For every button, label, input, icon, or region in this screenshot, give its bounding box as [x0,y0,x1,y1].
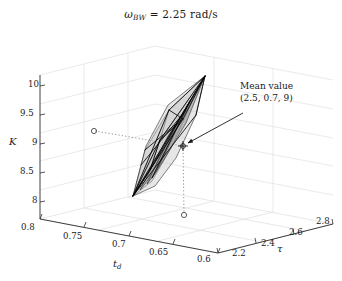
k-tick-label: 9.5 [20,108,34,118]
tau-tick-label: 2.6 [289,227,303,237]
td-axis-label: td [113,258,122,271]
k-tick-label: 9 [32,137,37,147]
figure-3d-plot: ωBW = 2.25 rad/s [0,0,342,281]
plot-canvas [0,0,342,281]
td-tick-label: 0.8 [21,222,35,232]
k-tick-label: 8.5 [20,166,34,176]
td-tick-label: 0.75 [63,231,82,241]
convex-hull-polyhedron [133,76,205,196]
td-tick-label: 0.65 [149,247,168,257]
hull-edges [133,76,205,196]
td-axis-label-subscript: d [117,263,121,271]
projection-line-to-floor [183,146,184,214]
tau-tick-label: 2.2 [232,248,246,258]
mean-value-annotation: Mean value (2.5, 0.7, 9) [240,81,293,104]
td-tick-label: 0.6 [197,254,211,264]
annotation-line-2: (2.5, 0.7, 9) [240,93,293,105]
k-tick-label: 8 [32,195,37,205]
tau-tick-label: 2.4 [261,238,275,248]
annotation-line-1: Mean value [240,81,293,93]
td-tick-label: 0.7 [112,239,126,249]
projection-marker-floor [181,212,186,217]
tau-axis-label: τ [277,243,283,254]
k-axis-ticks [40,85,45,202]
k-tick-label: 10 [28,79,39,89]
k-axis-label: K [9,136,16,147]
annotation-arrow [188,113,243,143]
tau-tick-label: 2.8 [316,216,330,226]
